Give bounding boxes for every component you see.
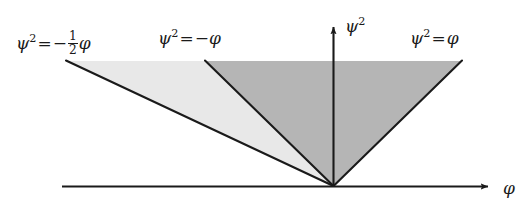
label-line-psi2-eq-neg-half-phi: ψ2=−12φ — [16, 30, 91, 57]
label-pos-equals: = — [431, 28, 445, 48]
label-neg-rhs: φ — [209, 28, 221, 48]
label-neg-lhs-exp: 2 — [171, 27, 178, 40]
label-neg-lhs-base: ψ — [158, 28, 171, 48]
label-pos-lhs-base: ψ — [410, 28, 423, 48]
y-axis-label: ψ2 — [345, 18, 365, 35]
label-half-rhs: φ — [79, 33, 91, 53]
label-half-lhs-exp: 2 — [29, 32, 36, 45]
x-axis-label: φ — [503, 180, 515, 197]
label-half-sign: − — [53, 33, 67, 53]
y-axis-label-base: ψ — [345, 16, 358, 36]
x-axis-label-text: φ — [503, 178, 515, 198]
label-pos-rhs: φ — [447, 28, 459, 48]
label-neg-equals: = — [179, 28, 193, 48]
label-half-equals: = — [37, 33, 51, 53]
label-line-psi2-eq-phi: ψ2=φ — [410, 30, 459, 47]
label-half-lhs-base: ψ — [16, 33, 29, 53]
label-line-psi2-eq-neg-phi: ψ2=−φ — [158, 30, 221, 47]
label-half-fraction-numerator: 1 — [68, 30, 78, 43]
label-half-fraction-denominator: 2 — [68, 43, 78, 57]
label-half-fraction: 12 — [68, 30, 78, 57]
label-neg-sign: − — [195, 28, 209, 48]
y-axis-label-exp: 2 — [358, 15, 365, 28]
label-pos-lhs-exp: 2 — [423, 27, 430, 40]
phi-psi-squared-wedge-diagram: ψ2=−12φ ψ2=−φ ψ2=φ ψ2 φ — [0, 0, 527, 213]
